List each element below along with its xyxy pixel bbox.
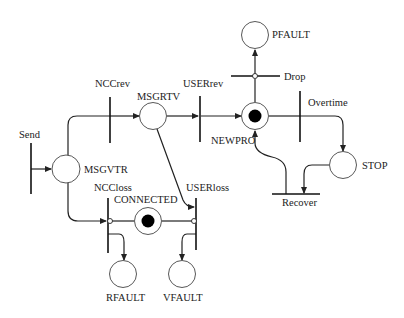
label-nccrev: NCCrev <box>95 78 131 89</box>
place-msgrtv[interactable] <box>140 103 167 130</box>
label-send: Send <box>19 129 41 140</box>
token-connected-icon <box>142 215 155 228</box>
label-msgvtr: MSGVTR <box>84 164 128 175</box>
token-newpro-icon <box>249 110 262 123</box>
arc-nccloss-rfault <box>108 234 124 260</box>
arc-overtime-stop <box>300 116 343 151</box>
label-recover: Recover <box>282 197 317 208</box>
label-newpro: NEWPRO <box>211 135 256 146</box>
label-vfault: VFAULT <box>163 292 203 303</box>
label-rfault: RFAULT <box>106 292 146 303</box>
inhibitor-nccloss-icon <box>108 219 113 224</box>
places <box>52 22 357 288</box>
label-connected: CONNECTED <box>114 194 178 205</box>
place-msgvtr[interactable] <box>52 155 80 183</box>
place-vfault[interactable] <box>169 261 196 288</box>
inhibitor-userloss-icon <box>192 219 197 224</box>
arc-userloss-vfault <box>182 234 196 260</box>
petri-net-diagram: Send MSGVTR NCCrev MSGRTV USERrev PFAULT… <box>0 0 404 318</box>
label-stop: STOP <box>362 160 388 171</box>
label-drop: Drop <box>284 71 306 82</box>
label-overtime: Overtime <box>308 97 348 108</box>
arc-stop-recover <box>304 165 329 193</box>
arc-recover-newpro <box>255 131 286 194</box>
label-userloss: USERloss <box>186 182 229 193</box>
arc-msgvtr-nccrev <box>68 116 110 155</box>
inhibitor-drop-icon <box>253 74 258 79</box>
label-nccloss: NCCloss <box>94 182 132 193</box>
label-msgrtv: MSGRTV <box>137 91 181 102</box>
label-pfault: PFAULT <box>272 29 311 40</box>
place-pfault[interactable] <box>242 22 269 49</box>
label-userrev: USERrev <box>183 78 224 89</box>
place-rfault[interactable] <box>110 261 137 288</box>
place-stop[interactable] <box>330 152 357 179</box>
